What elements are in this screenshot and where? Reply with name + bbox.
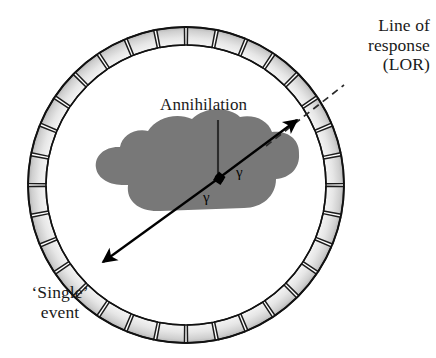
annihilation-label: Annihilation (160, 95, 247, 114)
gamma-symbol-upper: γ (236, 164, 243, 181)
single-event-label: ‘Single’ event (8, 283, 112, 322)
line-of-response-label: Line of response (LOR) (368, 16, 430, 75)
pet-ring-diagram: Line of response (LOR) ‘Single’ event An… (0, 0, 436, 358)
gamma-symbol-lower: γ (203, 189, 210, 206)
patient-cross-section (96, 109, 299, 211)
